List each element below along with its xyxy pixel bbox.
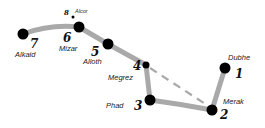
label-number-merak: 2 — [219, 108, 228, 122]
star-megrez — [143, 62, 150, 69]
label-name-alkaid: Alkaid — [14, 50, 36, 59]
label-name-mizar: Mizar — [59, 44, 78, 53]
label-name-dubhe: Dubhe — [228, 53, 250, 62]
label-name-phad: Phad — [106, 101, 124, 110]
label-number-dubhe: 1 — [235, 67, 243, 81]
label-name-merak: Merak — [223, 97, 245, 106]
label-number-megrez: 4 — [133, 59, 141, 73]
label-name-megrez: Megrez — [108, 73, 133, 82]
big-dipper-diagram: Dubhe 1 Merak 2 Phad 3 Megrez 4 Alioth 5… — [0, 0, 265, 128]
label-number-alioth: 5 — [91, 45, 99, 59]
star-phad — [145, 95, 156, 106]
label-number-mizar: 6 — [63, 31, 72, 45]
star-alkaid — [18, 29, 29, 40]
label-name-alcor: Alcor — [74, 8, 89, 14]
star-mizar — [74, 22, 85, 33]
star-alioth — [103, 39, 114, 50]
constellation-lines — [23, 26, 225, 110]
label-number-alkaid: 7 — [30, 37, 39, 51]
label-number-phad: 3 — [134, 99, 142, 113]
star-merak — [207, 105, 218, 116]
star-dubhe — [220, 63, 231, 74]
star-alcor — [72, 16, 75, 19]
label-number-alcor: 8 — [64, 8, 69, 17]
